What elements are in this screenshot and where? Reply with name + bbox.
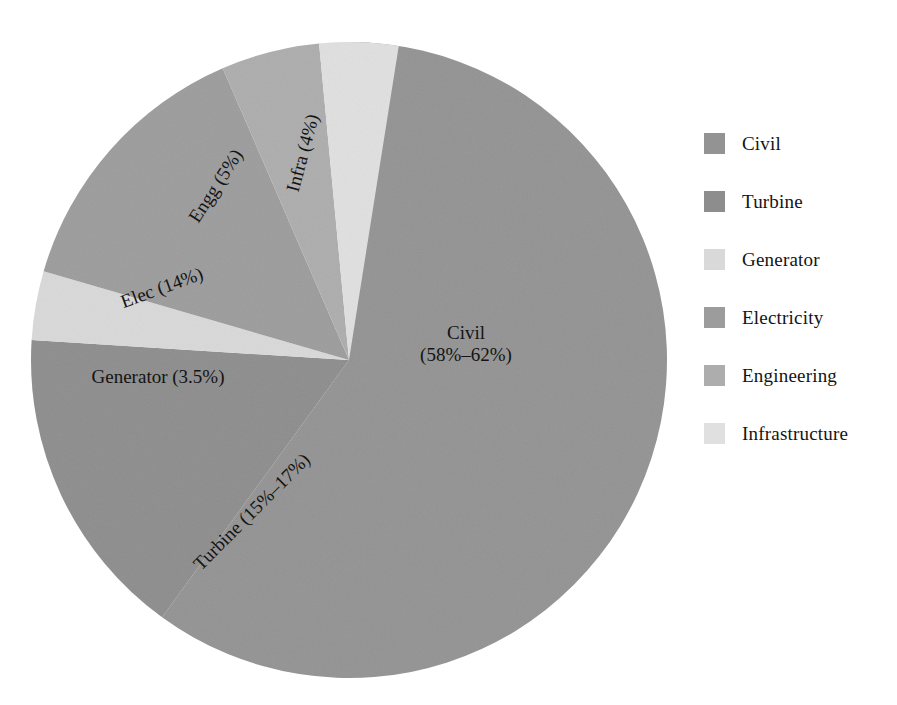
legend-swatch-icon [704, 133, 725, 154]
legend-item-engineering[interactable]: Engineering [704, 364, 894, 387]
pie-plot-area: Civil (58%–62%)Turbine (15%–17%)Generato… [0, 0, 700, 705]
legend-swatch-icon [704, 191, 725, 212]
pie-grain-overlay [31, 42, 667, 678]
legend-item-civil[interactable]: Civil [704, 132, 894, 155]
legend-swatch-icon [704, 365, 725, 386]
chart-legend: CivilTurbineGeneratorElectricityEngineer… [704, 132, 894, 480]
legend-item-electricity[interactable]: Electricity [704, 306, 894, 329]
pie-chart-figure: Civil (58%–62%)Turbine (15%–17%)Generato… [0, 0, 897, 705]
legend-item-label: Civil [742, 133, 781, 155]
legend-item-generator[interactable]: Generator [704, 248, 894, 271]
legend-swatch-icon [704, 307, 725, 328]
legend-item-infrastructure[interactable]: Infrastructure [704, 422, 894, 445]
legend-item-turbine[interactable]: Turbine [704, 190, 894, 213]
legend-item-label: Generator [742, 249, 820, 271]
legend-swatch-icon [704, 423, 725, 444]
pie-svg [0, 0, 700, 705]
legend-item-label: Infrastructure [742, 423, 848, 445]
legend-swatch-icon [704, 249, 725, 270]
legend-item-label: Engineering [742, 365, 837, 387]
legend-item-label: Electricity [742, 307, 823, 329]
legend-item-label: Turbine [742, 191, 803, 213]
